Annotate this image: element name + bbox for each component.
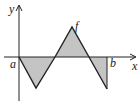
- area-under-curve-diagram: y x f a b: [0, 0, 140, 101]
- shaded-region-below-1: [19, 57, 55, 88]
- upper-bound-label: b: [110, 56, 116, 70]
- x-axis-label: x: [131, 59, 138, 73]
- lower-bound-label: a: [10, 57, 16, 71]
- function-label: f: [75, 19, 80, 33]
- y-axis-label: y: [8, 2, 15, 16]
- shaded-region-above-1: [55, 27, 89, 57]
